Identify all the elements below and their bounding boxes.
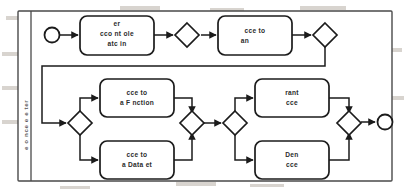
task-label-line-1: er (114, 20, 121, 27)
task-box[interactable] (255, 141, 329, 179)
task-deny-access[interactable]: Den cce (255, 141, 329, 179)
task-access-to-an[interactable]: cce to an (218, 16, 292, 55)
task-label-line-1: rant (285, 89, 299, 96)
task-access-to-a-function[interactable]: cce to a F nction (100, 79, 174, 117)
diagram-canvas: e o nce e e ter (0, 0, 411, 193)
task-label-line-1: cce to (127, 151, 148, 158)
task-label-line-1: cce to (127, 89, 148, 96)
task-label-line-2: an (241, 37, 249, 44)
start-event[interactable] (45, 28, 60, 43)
task-box[interactable] (218, 16, 292, 55)
task-access-to-a-dataset[interactable]: cce to a Data et (100, 141, 174, 179)
task-label-line-2: cce (286, 161, 298, 168)
lane-label: e o nce e e ter (22, 100, 29, 150)
task-label-line-1: Den (285, 151, 298, 158)
task-label-line-2: cco nt ole (100, 30, 134, 37)
task-label-line-3: atc in (107, 40, 126, 47)
task-box[interactable] (100, 79, 174, 117)
task-user-account-role-matching[interactable]: er cco nt ole atc in (80, 16, 154, 55)
task-box[interactable] (100, 141, 174, 179)
end-event[interactable] (378, 115, 393, 130)
task-label-line-2: a Data et (122, 161, 153, 168)
bpmn-diagram: e o nce e e ter (0, 0, 411, 193)
task-label-line-1: cce to (245, 27, 266, 34)
task-grant-access[interactable]: rant cce (255, 79, 329, 117)
task-label-line-2: cce (286, 99, 298, 106)
task-box[interactable] (255, 79, 329, 117)
task-label-line-2: a F nction (120, 99, 154, 106)
